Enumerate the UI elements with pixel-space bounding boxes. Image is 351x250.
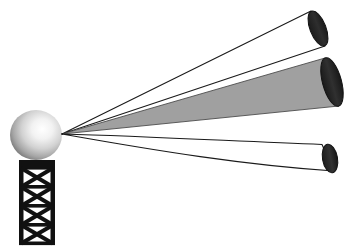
beam-apex-point	[61, 133, 63, 135]
tower-cross-bay-2	[21, 187, 53, 206]
radar-beam-diagram	[0, 0, 351, 250]
tower-cross-bay-3	[21, 206, 53, 225]
lower-beam-body	[62, 134, 334, 171]
lower-beam	[62, 134, 340, 174]
radome-sphere-body	[10, 110, 62, 160]
radome-sphere	[10, 110, 62, 160]
figure-canvas	[0, 0, 351, 250]
tower-cross-bay-4	[21, 225, 53, 244]
lattice-tower	[19, 160, 55, 245]
tower-cross-bay-1	[21, 168, 53, 187]
